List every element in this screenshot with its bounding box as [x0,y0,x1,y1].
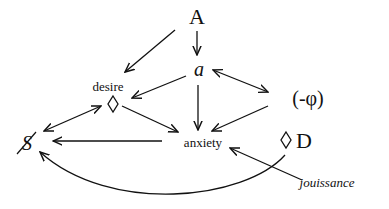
node-jouissance: jouissance [298,175,355,190]
node-A: A [189,4,205,29]
node-desire: desire [92,79,123,94]
edge-a-minus-phi [213,70,268,92]
edge-a-to-desire [132,76,186,98]
node-anxiety: anxiety [184,135,223,150]
diagram-canvas: A a desire (-φ) S anxiety D jouissance [0,0,389,209]
desire-diamond-icon [108,96,118,112]
node-diamond-D: D [281,128,312,153]
edge-A-to-desire [125,30,175,72]
D-diamond-icon [281,132,291,148]
node-barred-S: S [17,132,36,154]
edge-minus-phi-to-anxiety [212,106,268,131]
node-D-letter: D [296,128,312,153]
edge-D-to-S-curve [40,152,285,194]
edge-jouissance-to-anxiety [230,148,302,180]
edge-desire-to-anxiety [122,106,178,132]
node-minus-phi: (-φ) [292,87,324,110]
node-object-a: a [194,58,204,80]
edge-S-desire [44,106,101,131]
